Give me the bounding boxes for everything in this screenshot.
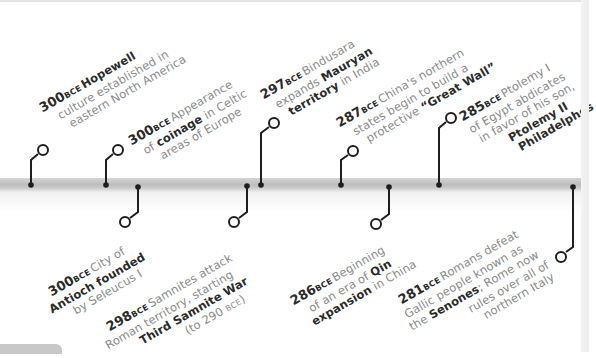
connector-antioch (120, 184, 141, 227)
marker-dot-icon (258, 182, 264, 188)
marker-dot-icon (135, 184, 141, 190)
connector-hopewell (28, 145, 48, 188)
marker-circle-icon (120, 217, 130, 227)
marker-circle-icon (113, 145, 123, 155)
page-corner-tab (0, 344, 62, 354)
marker-dot-icon (244, 183, 250, 189)
marker-dot-icon (386, 184, 392, 190)
marker-circle-icon (38, 145, 48, 155)
connector-coinage (103, 145, 123, 188)
connector-samnite (229, 183, 250, 227)
marker-circle-icon (556, 252, 566, 262)
marker-dot-icon (570, 184, 576, 190)
page-right-edge (581, 0, 589, 352)
connector-mauryan (258, 118, 279, 188)
connector-senones (556, 184, 576, 262)
marker-dot-icon (28, 182, 34, 188)
marker-circle-icon (371, 219, 381, 229)
marker-circle-icon (229, 217, 239, 227)
connector-qin (371, 184, 392, 229)
marker-circle-icon (446, 113, 456, 123)
connector-ptolemy (436, 113, 456, 188)
marker-dot-icon (103, 182, 109, 188)
marker-dot-icon (436, 182, 442, 188)
marker-dot-icon (338, 182, 344, 188)
